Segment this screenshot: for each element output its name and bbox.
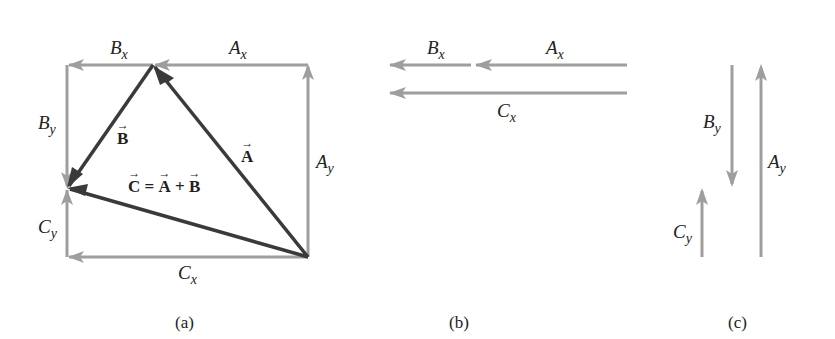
label-b-Bx: Bx	[427, 38, 445, 62]
label-vector-B: B	[117, 130, 128, 147]
panel-b-components	[389, 59, 627, 99]
label-c-By: By	[703, 112, 721, 136]
vector-addition-figure: Bx Ax By Ay Cy Cx B A C = A + B Bx Ax Cx…	[0, 0, 835, 339]
vector-A	[155, 67, 308, 257]
label-b-Ax: Ax	[546, 38, 564, 62]
vector-C	[70, 189, 308, 257]
label-a-Ax: Ax	[229, 38, 247, 62]
vector-B	[69, 65, 153, 186]
caption-b: (b)	[449, 314, 469, 331]
label-a-Cx: Cx	[178, 263, 197, 287]
label-a-Ay: Ay	[316, 152, 334, 176]
label-a-By: By	[38, 113, 56, 137]
caption-a: (a)	[175, 314, 194, 331]
label-vector-A: A	[241, 148, 253, 165]
label-c-Cy: Cy	[673, 222, 692, 246]
label-b-Cx: Cx	[497, 101, 516, 125]
caption-c: (c)	[728, 314, 747, 331]
label-a-Cy: Cy	[38, 217, 57, 241]
label-c-Ay: Ay	[768, 152, 786, 176]
label-sum-equation: C = A + B	[128, 178, 200, 195]
label-a-Bx: Bx	[110, 38, 128, 62]
panel-c-components	[696, 64, 767, 257]
panel-a-vectors	[67, 65, 308, 257]
panel-a-components	[61, 59, 314, 263]
